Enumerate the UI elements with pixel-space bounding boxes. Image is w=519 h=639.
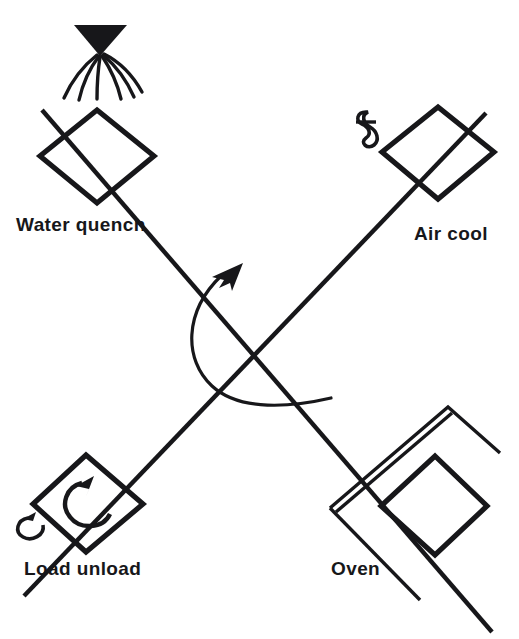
station-box-water-quench xyxy=(40,110,154,203)
station-label-oven: Oven xyxy=(331,558,380,579)
fan-icon xyxy=(356,112,377,147)
station-box-oven xyxy=(381,456,487,555)
index-rotation-arc xyxy=(192,263,331,405)
station-label-water-quench: Water quench xyxy=(16,214,146,235)
rotation-arrowhead-icon xyxy=(212,263,243,291)
process-diagram: Water quench Air cool Oven xyxy=(0,0,519,639)
station-load-unload: Load unload xyxy=(18,455,143,579)
arm-sw-ne xyxy=(24,113,486,596)
station-label-air-cool: Air cool xyxy=(414,223,488,244)
station-oven: Oven xyxy=(330,407,500,600)
rotation-arrowhead-small-icon xyxy=(76,476,94,497)
station-box-load-unload xyxy=(33,455,143,552)
spray-streams xyxy=(64,54,142,100)
station-label-load-unload: Load unload xyxy=(24,558,141,579)
diagram-canvas: Water quench Air cool Oven xyxy=(0,0,519,639)
corner-rotation-icon xyxy=(18,512,44,539)
spray-nozzle-icon xyxy=(64,25,142,100)
rotation-arrow-icon xyxy=(65,476,110,526)
station-water-quench: Water quench xyxy=(16,25,154,235)
